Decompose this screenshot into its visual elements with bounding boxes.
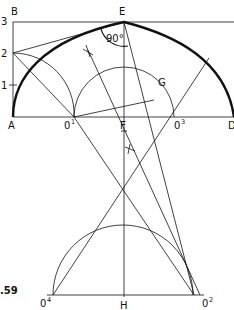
point-label-O2-sup: 2 (209, 296, 213, 304)
point-label-O1-sup: 1 (71, 118, 75, 126)
line-O3-O4 (53, 58, 209, 295)
line-E-O2 (124, 22, 194, 295)
scale-label-3: 3 (1, 16, 7, 27)
point-label-B: B (11, 6, 18, 17)
point-label-D: D (228, 120, 234, 131)
point-label-O4: 0 (40, 298, 46, 309)
point-label-O1: 0 (64, 120, 70, 131)
point-label-O3: 0 (174, 120, 180, 131)
point-label-A: A (8, 120, 15, 131)
line-O1-G (74, 100, 154, 117)
point-label-E: E (119, 6, 125, 17)
semicircle-H (53, 225, 193, 295)
geometric-construction-diagram: 3 2 1 B E A F D G H 0 1 0 3 0 4 0 2 90° … (0, 0, 234, 310)
point-label-H: H (120, 300, 128, 310)
figure-number: .59 (0, 285, 18, 296)
point-label-G: G (158, 77, 166, 88)
point-label-F: F (120, 120, 126, 131)
scale-label-2: 2 (1, 48, 7, 59)
angle-label: 90° (106, 33, 124, 44)
point-label-O4-sup: 4 (47, 296, 51, 304)
line-2-O1 (13, 53, 74, 117)
line-O1-O2 (74, 117, 194, 295)
point-label-O2: 0 (202, 298, 208, 309)
point-label-O3-sup: 3 (181, 118, 185, 126)
scale-label-1: 1 (1, 80, 7, 91)
